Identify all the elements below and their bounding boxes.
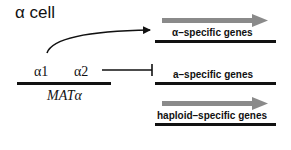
locus-label: MATα: [47, 88, 82, 104]
gene-label-alpha2: α2: [74, 64, 88, 80]
gene-bar-a-specific: [155, 82, 276, 85]
transcript-arrow-haploid-specific: [162, 97, 268, 110]
transcript-arrow-alpha-specific: [162, 14, 268, 27]
mat-locus-bar: [17, 82, 111, 85]
gene-label-alpha1: α1: [34, 64, 48, 80]
gene-bar-alpha-specific: [155, 40, 276, 43]
alpha-cell-diagram: α cell α1 α2 MATα α–specific genes a–spe…: [0, 0, 291, 150]
cell-type-title: α cell: [15, 3, 55, 23]
gene-bar-haploid-specific: [155, 123, 276, 126]
target-label-a-specific: a–specific genes: [173, 69, 253, 80]
activation-arrow: [47, 30, 150, 53]
target-label-alpha-specific: α–specific genes: [172, 27, 253, 38]
target-label-haploid-specific: haploid–specific genes: [157, 110, 267, 121]
